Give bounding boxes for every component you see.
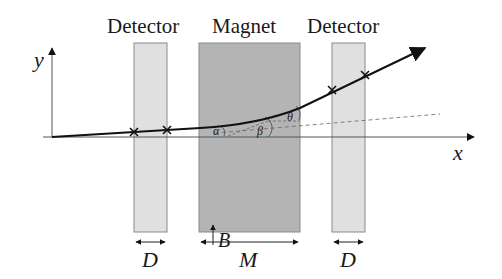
spectrometer-diagram: Detector Magnet Detector y x α β θ B D M… [0,0,502,279]
detector-left-label: Detector [107,14,179,38]
field-label: B [218,229,230,251]
detector-left-width-label: D [141,247,158,272]
magnet-label: Magnet [212,14,276,38]
alpha-label: α [213,124,220,138]
beta-label: β [256,124,263,138]
magnet-width-label: M [238,247,259,272]
x-axis-label: x [452,140,463,165]
theta-label: θ [287,110,293,124]
detector-right-label: Detector [307,14,379,38]
y-axis-label: y [32,47,44,72]
detector-right-width-label: D [339,247,356,272]
